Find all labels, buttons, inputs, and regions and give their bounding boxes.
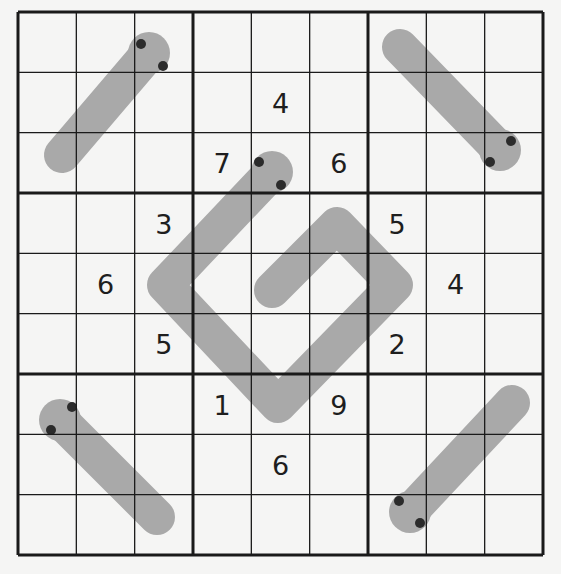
given-digit-r2c5: 4	[272, 88, 289, 119]
cell-r9c6[interactable]	[310, 495, 368, 555]
cell-r2c6[interactable]	[310, 72, 368, 132]
cell-r1c7[interactable]	[368, 12, 426, 72]
cell-r1c5[interactable]	[251, 12, 309, 72]
cell-r9c7[interactable]	[368, 495, 426, 555]
cell-r8c9[interactable]	[485, 434, 543, 494]
cell-r8c7[interactable]	[368, 434, 426, 494]
cell-r6c8[interactable]	[426, 314, 484, 374]
cell-r5c7[interactable]	[368, 253, 426, 313]
cell-r1c9[interactable]	[485, 12, 543, 72]
cell-r7c8[interactable]	[426, 374, 484, 434]
cell-r5c4[interactable]	[193, 253, 251, 313]
cell-r6c4[interactable]	[193, 314, 251, 374]
cell-r9c9[interactable]	[485, 495, 543, 555]
given-digit-r8c5: 6	[272, 450, 289, 481]
cell-r5c6[interactable]	[310, 253, 368, 313]
cell-r6c6[interactable]	[310, 314, 368, 374]
cell-r2c8[interactable]	[426, 72, 484, 132]
given-digit-r3c4: 7	[214, 148, 231, 179]
cell-r9c5[interactable]	[251, 495, 309, 555]
cell-r8c8[interactable]	[426, 434, 484, 494]
cell-r3c2[interactable]	[76, 133, 134, 193]
cell-r4c2[interactable]	[76, 193, 134, 253]
cell-r2c9[interactable]	[485, 72, 543, 132]
cell-r1c4[interactable]	[193, 12, 251, 72]
given-digit-r3c6: 6	[330, 148, 347, 179]
cell-r3c5[interactable]	[251, 133, 309, 193]
given-digit-r4c7: 5	[389, 209, 406, 240]
cell-r2c1[interactable]	[18, 72, 76, 132]
cell-r2c3[interactable]	[135, 72, 193, 132]
cell-r4c8[interactable]	[426, 193, 484, 253]
cell-r6c1[interactable]	[18, 314, 76, 374]
cell-r4c9[interactable]	[485, 193, 543, 253]
cell-r9c1[interactable]	[18, 495, 76, 555]
cell-r3c1[interactable]	[18, 133, 76, 193]
cell-r1c8[interactable]	[426, 12, 484, 72]
cell-r3c8[interactable]	[426, 133, 484, 193]
sudoku-board: 476356452196	[0, 0, 561, 574]
cell-r4c1[interactable]	[18, 193, 76, 253]
cell-r8c6[interactable]	[310, 434, 368, 494]
cell-r8c2[interactable]	[76, 434, 134, 494]
cell-r5c1[interactable]	[18, 253, 76, 313]
cell-r6c9[interactable]	[485, 314, 543, 374]
cell-r5c3[interactable]	[135, 253, 193, 313]
cell-r3c9[interactable]	[485, 133, 543, 193]
given-digit-r7c6: 9	[330, 390, 347, 421]
cell-r9c4[interactable]	[193, 495, 251, 555]
given-digit-r4c3: 3	[155, 209, 172, 240]
cell-r9c8[interactable]	[426, 495, 484, 555]
cell-r4c6[interactable]	[310, 193, 368, 253]
cell-r7c7[interactable]	[368, 374, 426, 434]
cell-r9c3[interactable]	[135, 495, 193, 555]
given-digit-r6c7: 2	[389, 329, 406, 360]
cell-r6c5[interactable]	[251, 314, 309, 374]
cell-r7c1[interactable]	[18, 374, 76, 434]
cell-r2c2[interactable]	[76, 72, 134, 132]
cell-r5c9[interactable]	[485, 253, 543, 313]
cell-r6c2[interactable]	[76, 314, 134, 374]
cell-r7c2[interactable]	[76, 374, 134, 434]
cell-r1c2[interactable]	[76, 12, 134, 72]
cell-r4c4[interactable]	[193, 193, 251, 253]
cell-r9c2[interactable]	[76, 495, 134, 555]
cell-r8c1[interactable]	[18, 434, 76, 494]
cell-r8c4[interactable]	[193, 434, 251, 494]
cell-r7c3[interactable]	[135, 374, 193, 434]
cell-r1c6[interactable]	[310, 12, 368, 72]
cell-r5c5[interactable]	[251, 253, 309, 313]
given-digit-r6c3: 5	[155, 329, 172, 360]
cell-r1c3[interactable]	[135, 12, 193, 72]
cell-r4c5[interactable]	[251, 193, 309, 253]
given-digit-r5c8: 4	[447, 269, 464, 300]
cell-r2c4[interactable]	[193, 72, 251, 132]
given-digit-r7c4: 1	[214, 390, 231, 421]
given-digit-r5c2: 6	[97, 269, 114, 300]
cell-r7c5[interactable]	[251, 374, 309, 434]
cell-r3c7[interactable]	[368, 133, 426, 193]
cell-r1c1[interactable]	[18, 12, 76, 72]
cell-r7c9[interactable]	[485, 374, 543, 434]
cell-r2c7[interactable]	[368, 72, 426, 132]
cell-r8c3[interactable]	[135, 434, 193, 494]
cell-r3c3[interactable]	[135, 133, 193, 193]
